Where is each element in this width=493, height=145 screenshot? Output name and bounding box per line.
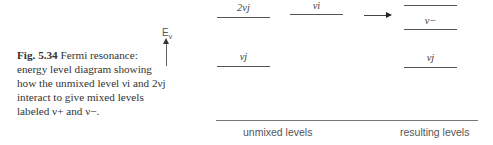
energy-level-vi [290, 14, 343, 15]
energy-level-v-minus [404, 29, 457, 30]
level-label-2vj: 2νj [217, 2, 270, 13]
baseline-divider [216, 120, 478, 121]
energy-level-2vj [217, 17, 270, 18]
axis-label-subscript: v [169, 33, 173, 40]
figure-caption: Fig. 5.34 Fermi resonance: energy level … [17, 48, 167, 118]
energy-level-vj-result [404, 67, 457, 68]
up-arrow-icon [166, 42, 167, 66]
energy-level-vj [217, 66, 270, 67]
right-arrow-icon [364, 15, 388, 16]
energy-level-v-plus [404, 5, 457, 6]
level-label-vj-result: νj [404, 52, 457, 63]
level-label-v-plus: ν+ [404, 0, 457, 2]
axis-label-text: E [162, 27, 169, 38]
unmixed-levels-label: unmixed levels [243, 126, 312, 138]
level-label-vi: νi [290, 0, 343, 11]
figure-number: Fig. 5.34 [17, 49, 58, 61]
level-label-v-minus: ν− [404, 15, 457, 26]
level-label-vj: νj [217, 51, 270, 62]
resulting-levels-label: resulting levels [400, 126, 469, 138]
